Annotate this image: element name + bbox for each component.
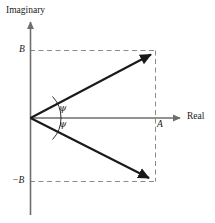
- imag-negative-tick-label: −B: [12, 176, 24, 186]
- imag-positive-tick-label: B: [19, 45, 25, 55]
- phasor-diagram-figure: Imaginary Real B −B A ψ ψ: [0, 0, 215, 223]
- angle-label-upper-psi: ψ: [59, 103, 66, 113]
- construction-lines: [30, 51, 156, 182]
- imaginary-axis-label: Imaginary: [6, 6, 45, 16]
- real-positive-tick-label: A: [157, 120, 163, 130]
- vector-a-minus-jb: [31, 118, 150, 178]
- phasor-diagram-canvas: [0, 0, 215, 223]
- phasor-vectors: [31, 55, 152, 179]
- angle-label-lower-psi: ψ: [59, 119, 66, 129]
- vector-a-plus-jb: [31, 55, 152, 119]
- real-axis-label: Real: [187, 112, 204, 122]
